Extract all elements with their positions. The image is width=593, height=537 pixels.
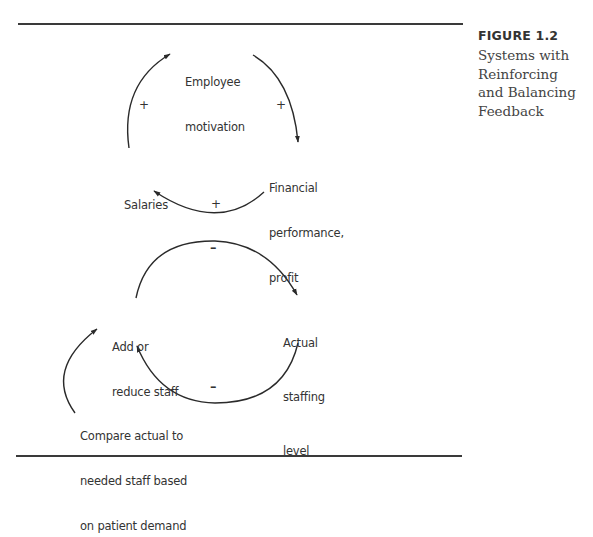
node-financial-performance: Financial performance, profit [269,151,344,316]
node-line: performance, [269,226,344,241]
node-line: Add or [112,340,178,355]
title-line: Feedback [478,102,576,121]
title-line: Systems with [478,46,576,65]
node-line: reduce staff [112,385,178,400]
figure-label: FIGURE 1.2 [478,28,576,44]
node-line: Financial [269,181,344,196]
node-line: Compare actual to [80,429,187,444]
sign-actual-staff: – [210,381,217,393]
node-line: staffing [283,388,325,406]
node-line: profit [269,271,344,286]
node-line: level [283,442,325,460]
node-line: Salaries [124,198,168,213]
sign-staff-actual: – [210,242,217,254]
node-salaries: Salaries [124,168,168,243]
node-line: Employee [185,75,245,90]
arrow-financial-to-salaries [154,191,264,213]
node-employee-motivation: Employee motivation [185,45,245,165]
node-compare-demand: Compare actual to needed staff based on … [80,399,187,537]
sign-salaries-motivation: + [139,99,149,111]
node-actual-staffing-level: Actual staffing level [283,298,325,496]
sign-motivation-financial: + [276,99,286,111]
figure-title: Systems with Reinforcing and Balancing F… [478,46,576,120]
figure-caption: FIGURE 1.2 Systems with Reinforcing and … [478,28,576,120]
node-line: motivation [185,120,245,135]
node-line: needed staff based [80,474,187,489]
node-line: on patient demand [80,519,187,534]
node-line: Actual [283,334,325,352]
title-line: and Balancing [478,83,576,102]
sign-financial-salaries: + [211,198,221,210]
title-line: Reinforcing [478,65,576,84]
